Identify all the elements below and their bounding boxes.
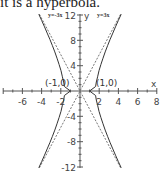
x-axis-label: x [151,79,157,89]
svg-text:-6: -6 [18,97,27,107]
svg-text:-4: -4 [67,112,76,122]
svg-text:-4: -4 [37,97,46,107]
x-tick-labels: -6 -4 -2 2 4 6 8 [18,97,160,107]
svg-text:2: 2 [96,97,102,107]
hyperbola-chart: -6 -4 -2 2 4 6 8 12 8 4 -4 -8 -12 y x (-… [0,0,160,174]
svg-text:-8: -8 [67,137,76,147]
svg-text:-12: -12 [61,163,76,173]
axes [3,14,157,168]
svg-text:8: 8 [70,36,76,46]
vertex-left-label: (-1,0) [45,78,70,88]
y-axis-label: y [84,11,90,21]
svg-text:4: 4 [70,61,76,71]
vertex-right-label: (1,0) [96,78,117,88]
svg-text:12: 12 [65,11,76,21]
svg-text:6: 6 [135,97,141,107]
svg-text:-2: -2 [56,97,65,107]
svg-text:8: 8 [154,97,160,107]
asymptote-left-label: y=-3x [48,12,62,18]
asymptote-right-label: y=3x [97,12,109,18]
svg-text:4: 4 [116,97,122,107]
